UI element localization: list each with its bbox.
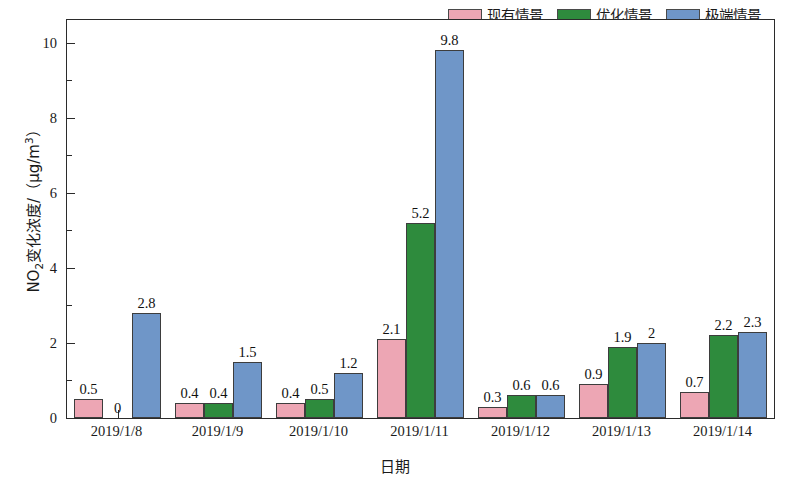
bar-value-label: 1.2: [319, 356, 379, 371]
y-axis-tick-label: 8: [21, 110, 57, 125]
bar-value-label: 1.5: [218, 345, 278, 360]
bar-current[interactable]: [276, 403, 305, 418]
bar-current[interactable]: [377, 339, 406, 418]
bar-extreme[interactable]: [738, 332, 767, 418]
bar-value-label: 2.3: [723, 315, 783, 330]
bar-optimized[interactable]: [608, 347, 637, 418]
bar-extreme[interactable]: [334, 373, 363, 418]
plot-area: 02468100.502.80.40.41.50.40.51.22.15.29.…: [66, 19, 775, 419]
bar-extreme[interactable]: [132, 313, 161, 418]
y-axis-tick-label: 10: [21, 35, 57, 50]
y-axis-title: NO2变化浓度/（μg/m3）: [22, 93, 45, 323]
bar-value-label: 2.8: [117, 296, 177, 311]
bar-current[interactable]: [478, 407, 507, 418]
y-axis-tick-label: 4: [21, 261, 57, 276]
y-axis-tick: [67, 43, 75, 44]
y-axis-tick: [67, 193, 75, 194]
y-axis-tick: [67, 418, 75, 419]
bar-optimized[interactable]: [406, 223, 435, 418]
bar-extreme[interactable]: [637, 343, 666, 418]
x-axis-title: 日期: [0, 455, 790, 476]
chart-figure: 现有情景 优化情景 极端情景 NO2变化浓度/（μg/m3） 02468100.…: [0, 0, 790, 486]
y-axis-tick-label: 2: [21, 336, 57, 351]
bar-current[interactable]: [579, 384, 608, 418]
bar-optimized[interactable]: [204, 403, 233, 418]
bar-optimized[interactable]: [305, 399, 334, 418]
y-axis-minor-tick: [67, 230, 72, 231]
y-axis-tick-label: 6: [21, 185, 57, 200]
bar-value-label: 0.5: [59, 382, 119, 397]
bar-extreme[interactable]: [233, 362, 262, 418]
y-axis-tick: [67, 118, 75, 119]
y-axis-minor-tick: [67, 80, 72, 81]
bar-current[interactable]: [175, 403, 204, 418]
bar-value-label: 9.8: [420, 33, 480, 48]
bar-optimized[interactable]: [507, 395, 536, 418]
bar-extreme[interactable]: [536, 395, 565, 418]
y-axis-tick: [67, 268, 75, 269]
plot-inner: 02468100.502.80.40.41.50.40.51.22.15.29.…: [67, 20, 774, 418]
x-axis-tick-label: 2019/1/14: [658, 424, 788, 439]
y-axis-tick: [67, 343, 75, 344]
bar-current[interactable]: [680, 392, 709, 418]
y-axis-minor-tick: [67, 305, 72, 306]
bar-optimized[interactable]: [709, 335, 738, 418]
y-axis-minor-tick: [67, 155, 72, 156]
bar-value-label: 2: [622, 326, 682, 341]
bar-extreme[interactable]: [435, 50, 464, 418]
